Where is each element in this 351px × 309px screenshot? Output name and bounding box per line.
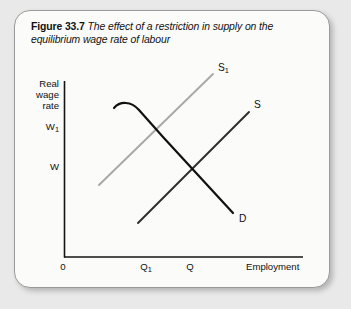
x-tick-q1-sub: 1 <box>148 265 152 274</box>
y-axis-label-line1: Real <box>39 78 59 89</box>
curve-label-s1-sub: 1 <box>225 66 229 75</box>
y-axis-label-line3: rate <box>42 100 59 111</box>
x-tick-label-q: Q <box>186 261 193 272</box>
x-tick-q1-main: Q <box>140 261 147 272</box>
curve-label-s1: S1 <box>218 62 229 75</box>
y-tick-label-w1: W1 <box>46 121 59 134</box>
x-tick-label-q1: Q1 <box>140 261 152 274</box>
x-axis-label: Employment <box>246 261 300 272</box>
y-tick-w1-sub: 1 <box>55 125 59 134</box>
y-tick-label-w: W <box>50 161 60 172</box>
y-axis-label-line2: wage <box>35 89 59 100</box>
figure-card: Figure 33.7 The effect of a restriction … <box>14 10 330 288</box>
curve-label-d: D <box>239 213 246 224</box>
origin-label: 0 <box>60 261 65 272</box>
demand-curve-d <box>114 103 233 213</box>
curve-label-s: S <box>254 99 261 110</box>
supply-demand-chart: Real wage rate W1 W 0 Q1 Q Employment S1… <box>15 11 330 288</box>
